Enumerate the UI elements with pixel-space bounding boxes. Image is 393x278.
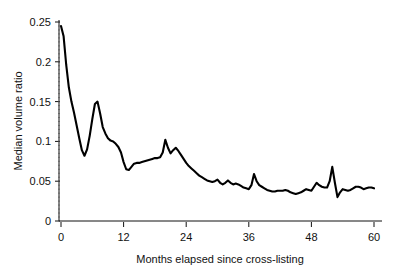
line-chart-svg: 00.050.10.150.20.25 01224364860 Median v…: [0, 0, 393, 278]
data-series-line: [61, 26, 374, 197]
x-tick-label: 24: [180, 231, 192, 243]
y-tick-label: 0.1: [36, 135, 51, 147]
y-tick-labels: 00.050.10.150.20.25: [30, 16, 51, 227]
x-tick-label: 12: [117, 231, 129, 243]
x-tick-label: 0: [58, 231, 64, 243]
y-tick-label: 0.15: [30, 96, 51, 108]
x-axis-title: Months elapsed since cross-listing: [136, 253, 304, 265]
chart-figure: 00.050.10.150.20.25 01224364860 Median v…: [0, 0, 393, 278]
x-tick-label: 48: [305, 231, 317, 243]
x-tick-label: 60: [368, 231, 380, 243]
x-tick-labels: 01224364860: [58, 231, 380, 243]
y-axis-title: Median volume ratio: [12, 71, 24, 170]
x-tick-marks: [61, 222, 374, 227]
y-tick-label: 0.25: [30, 16, 51, 28]
y-tick-label: 0.2: [36, 56, 51, 68]
y-tick-label: 0: [45, 215, 51, 227]
x-tick-label: 36: [243, 231, 255, 243]
y-tick-label: 0.05: [30, 175, 51, 187]
